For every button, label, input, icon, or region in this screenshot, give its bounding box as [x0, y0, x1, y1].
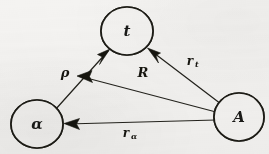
- node-alpha: α: [9, 100, 65, 148]
- vector-R-arrowhead: [77, 71, 93, 83]
- vector-rt-arrowhead: [148, 48, 161, 63]
- arrowheads-group: [64, 48, 161, 130]
- vector-rt-label-sub: t: [195, 59, 199, 69]
- vector-rt-label: r t: [187, 54, 199, 70]
- vector-rho-label: ρ: [60, 65, 70, 80]
- vector-rt-line: [150, 50, 221, 104]
- vector-ralpha-line: [67, 120, 216, 124]
- node-A: A: [212, 93, 266, 141]
- vector-rho-arrowhead: [98, 49, 111, 65]
- vector-ralpha-label-sub: α: [131, 131, 137, 141]
- vector-R-label: R: [137, 65, 149, 80]
- vector-rt-label-base: r: [187, 54, 195, 68]
- node-alpha-label: α: [31, 115, 43, 133]
- diagram-canvas: t α: [0, 0, 269, 154]
- node-t-label: t: [124, 22, 131, 40]
- vector-rho-line: [55, 51, 108, 110]
- vector-ralpha-label: r α: [123, 126, 137, 142]
- node-t: t: [99, 7, 155, 55]
- vector-diagram-figure: t α: [0, 0, 269, 154]
- edge-labels-group: r t R ρ r α: [60, 54, 199, 142]
- node-A-label: A: [231, 108, 245, 126]
- vector-R-line: [79, 76, 216, 112]
- vector-ralpha-label-base: r: [123, 126, 131, 140]
